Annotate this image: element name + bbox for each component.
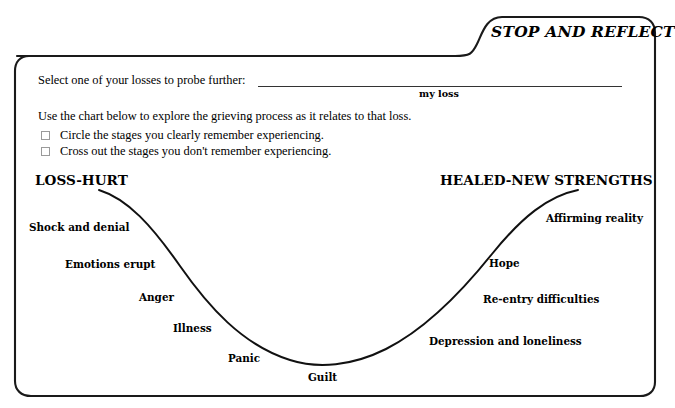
- chart-endpoint-label-left: LOSS-HURT: [35, 172, 128, 188]
- stage-label-guilt[interactable]: Guilt: [308, 371, 337, 383]
- my-loss-caption: my loss: [419, 88, 459, 99]
- my-loss-write-in-line[interactable]: [258, 86, 622, 87]
- checklist-item-circle-label: Circle the stages you clearly remember e…: [60, 128, 324, 143]
- checklist-item-circle[interactable]: Circle the stages you clearly remember e…: [41, 128, 324, 143]
- stage-label-panic[interactable]: Panic: [228, 352, 260, 364]
- stage-label-re-entry-difficulties[interactable]: Re-entry difficulties: [483, 293, 599, 305]
- stage-label-shock-and-denial[interactable]: Shock and denial: [29, 221, 129, 233]
- stage-label-affirming-reality[interactable]: Affirming reality: [546, 212, 643, 224]
- checklist-item-cross-out-label: Cross out the stages you don't remember …: [60, 144, 331, 159]
- chart-endpoint-label-right: HEALED-NEW STRENGTHS: [440, 172, 653, 188]
- stage-label-anger[interactable]: Anger: [139, 291, 174, 303]
- stage-label-emotions-erupt[interactable]: Emotions erupt: [65, 258, 155, 270]
- select-loss-instruction: Select one of your losses to probe furth…: [38, 73, 246, 88]
- checkbox-icon[interactable]: [41, 131, 50, 140]
- tab-title: STOP AND REFLECT: [491, 22, 675, 41]
- stage-label-depression-and-loneliness[interactable]: Depression and loneliness: [429, 335, 582, 347]
- stage-label-illness[interactable]: Illness: [173, 322, 212, 334]
- checkbox-icon[interactable]: [41, 147, 50, 156]
- checklist-item-cross-out[interactable]: Cross out the stages you don't remember …: [41, 144, 331, 159]
- use-chart-instruction: Use the chart below to explore the griev…: [38, 109, 411, 124]
- stage-label-hope[interactable]: Hope: [489, 257, 520, 269]
